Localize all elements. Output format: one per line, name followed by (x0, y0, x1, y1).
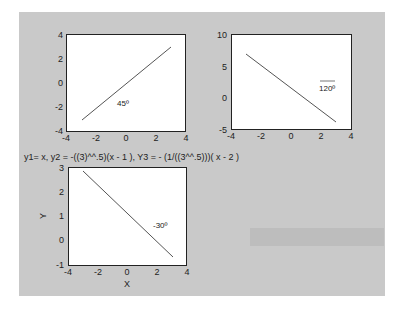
annotation-box (320, 80, 335, 82)
xtick: -4 (64, 268, 72, 277)
ytick: 0 (43, 79, 63, 88)
ytick: -1 (44, 261, 64, 270)
xtick: 4 (184, 268, 189, 277)
axes-3 (68, 167, 187, 266)
xtick: -4 (62, 134, 70, 143)
line-y1 (67, 35, 187, 133)
xtick: 0 (288, 132, 293, 141)
xtick: -2 (92, 134, 100, 143)
xtick: -2 (94, 268, 102, 277)
line-y2 (232, 35, 353, 131)
line-y3 (69, 168, 188, 267)
y-axis-label: Y (38, 213, 48, 219)
annotation-1: 45º (117, 99, 129, 108)
xtick: 2 (154, 268, 159, 277)
ytick: 10 (207, 31, 227, 40)
xtick: -4 (227, 132, 235, 141)
xtick: 0 (123, 134, 128, 143)
xtick: -2 (257, 132, 265, 141)
ytick: -5 (207, 126, 227, 135)
ytick: 0 (207, 94, 227, 103)
xtick: 4 (348, 132, 353, 141)
ytick: -4 (43, 127, 63, 136)
ytick: 0 (44, 236, 64, 245)
annotation-2: 120º (319, 84, 335, 93)
xtick: 2 (318, 132, 323, 141)
annotation-3: -30º (153, 221, 167, 230)
ytick: 3 (44, 164, 64, 173)
xtick: 0 (124, 268, 129, 277)
x-axis-label: X (124, 279, 130, 289)
xtick: 4 (183, 134, 188, 143)
ytick: 4 (43, 31, 63, 40)
ytick: -2 (43, 103, 63, 112)
figure-title: y1= x, y2 = -((3)^^.5)(x - 1 ), Y3 = - (… (24, 152, 239, 162)
xtick: 2 (153, 134, 158, 143)
axes-1 (66, 34, 186, 132)
ytick: 2 (44, 188, 64, 197)
ytick: 5 (207, 63, 227, 72)
gray-band (250, 228, 384, 246)
ytick: 2 (43, 55, 63, 64)
axes-2 (231, 34, 352, 130)
